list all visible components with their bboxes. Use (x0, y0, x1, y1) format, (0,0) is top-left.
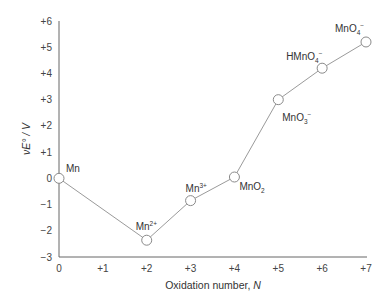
data-point-marker (142, 235, 152, 245)
y-tick-label: 0 (46, 173, 52, 184)
species-labels: MnMn2+Mn3+MnO2MnO3−HMnO4−MnO4− (66, 22, 364, 232)
y-tick-labels: +6+5+4+3+2+10−1−2−3 (41, 16, 53, 263)
x-tick-labels: 0+1+2+3+4+5+6+7 (56, 263, 372, 274)
data-point-marker (54, 173, 64, 183)
species-label: MnO4− (335, 22, 364, 36)
species-label: MnO2 (239, 181, 265, 194)
data-point-marker (186, 196, 196, 206)
x-axis-title: Oxidation number, N (165, 279, 261, 291)
x-tick-label: +2 (141, 263, 153, 274)
y-tick-label: +6 (41, 16, 53, 27)
x-tick-label: +4 (229, 263, 241, 274)
y-tick-label: +1 (41, 147, 53, 158)
y-tick-label: +4 (41, 68, 53, 79)
x-tick-label: +7 (360, 263, 372, 274)
y-tick-label: +5 (41, 42, 53, 53)
x-tick-label: +3 (185, 263, 197, 274)
y-tick-label: +2 (41, 120, 53, 131)
y-tick-label: −1 (41, 199, 53, 210)
species-label: Mn (66, 163, 80, 174)
x-tick-label: +6 (316, 263, 328, 274)
data-point-marker (317, 63, 327, 73)
species-label: HMnO4− (286, 50, 323, 64)
species-label: Mn2+ (136, 220, 158, 232)
x-tick-label: 0 (56, 263, 62, 274)
x-tick-label: +5 (273, 263, 285, 274)
species-label: MnO3− (282, 111, 311, 125)
species-label: Mn3+ (186, 182, 208, 194)
series-markers (54, 37, 371, 245)
y-tick-label: −3 (41, 252, 53, 263)
data-point-marker (361, 37, 371, 47)
x-tick-label: +1 (97, 263, 109, 274)
data-point-marker (229, 172, 239, 182)
y-axis-title: νE° / V (20, 122, 32, 155)
data-point-marker (273, 95, 283, 105)
frost-diagram-chart: +6+5+4+3+2+10−1−2−3 0+1+2+3+4+5+6+7 νE° … (0, 0, 391, 302)
y-tick-label: +3 (41, 94, 53, 105)
y-tick-label: −2 (41, 225, 53, 236)
